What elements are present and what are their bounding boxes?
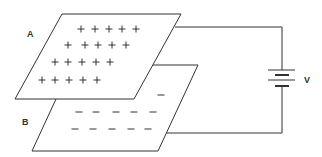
battery-icon <box>268 70 295 86</box>
plate-a-label: A <box>27 29 34 39</box>
plate-b-label: B <box>22 117 29 127</box>
battery-voltage-label: V <box>304 75 310 85</box>
capacitor-diagram <box>0 0 322 157</box>
wire-a <box>175 27 282 70</box>
